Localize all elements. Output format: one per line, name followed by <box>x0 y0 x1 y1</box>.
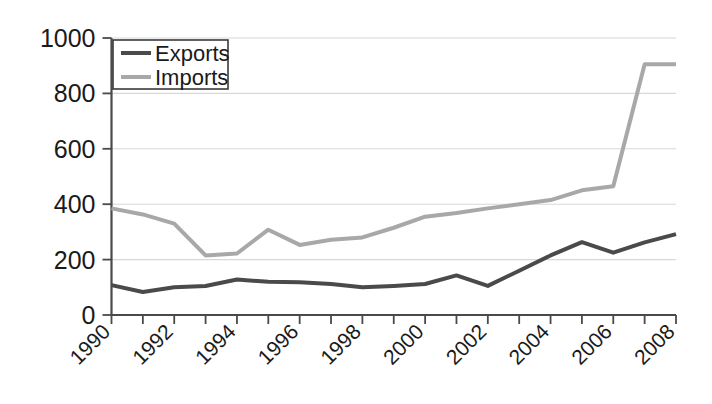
x-tick-label: 2000 <box>379 320 428 369</box>
x-tick-label: 1990 <box>65 320 114 369</box>
chart-legend: ExportsImports <box>113 40 230 90</box>
x-tick-label: 2004 <box>504 319 554 369</box>
legend-label-exports: Exports <box>155 41 230 66</box>
y-tick-label: 600 <box>54 135 96 163</box>
series-line-exports <box>112 234 677 292</box>
x-tick-label: 2008 <box>630 320 679 369</box>
data-series <box>112 64 677 292</box>
y-tick-label: 800 <box>54 79 96 107</box>
x-axis-tick-labels: 1990199219941996199820002002200420062008 <box>65 319 679 369</box>
line-chart: 10008006004002000 1990199219941996199820… <box>0 0 712 404</box>
x-tick-label: 2002 <box>441 320 490 369</box>
x-tick-label: 1994 <box>190 319 240 369</box>
x-tick-label: 1996 <box>253 320 302 369</box>
y-tick-label: 200 <box>54 246 96 274</box>
y-tick-label: 1000 <box>40 24 96 52</box>
x-axis-ticks <box>112 315 677 324</box>
chart-canvas: 10008006004002000 1990199219941996199820… <box>0 0 712 404</box>
y-axis-tick-labels: 10008006004002000 <box>40 24 96 329</box>
x-tick-label: 2006 <box>567 320 616 369</box>
y-axis-ticks <box>103 38 112 315</box>
x-tick-label: 1992 <box>128 320 177 369</box>
legend-label-imports: Imports <box>155 65 228 90</box>
y-tick-label: 400 <box>54 190 96 218</box>
x-tick-label: 1998 <box>316 320 365 369</box>
